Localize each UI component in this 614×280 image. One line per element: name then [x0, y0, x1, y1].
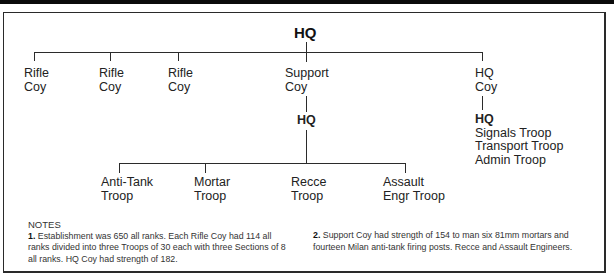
- connector: [205, 163, 206, 173]
- connector: [482, 52, 483, 61]
- connector: [34, 52, 483, 53]
- unit-rifle-coy-2: RifleCoy: [99, 67, 124, 94]
- troop-assault-engr: AssaultEngr Troop: [383, 176, 445, 203]
- notes-heading: NOTES: [28, 219, 288, 231]
- support-coy-hq-label: HQ: [297, 114, 316, 128]
- troop-mortar: MortarTroop: [194, 176, 230, 203]
- unit-rifle-coy-1: RifleCoy: [24, 67, 49, 94]
- connector: [110, 52, 111, 61]
- top-rule: [0, 0, 614, 4]
- connector: [178, 52, 179, 61]
- note-2: 2. Support Coy had strength of 154 to ma…: [313, 230, 575, 253]
- troop-anti-tank: Anti-TankTroop: [101, 176, 153, 203]
- connector: [34, 52, 35, 61]
- connector: [119, 163, 120, 173]
- connector: [306, 130, 307, 164]
- note-1: NOTES 1. Establishment was 650 all ranks…: [28, 219, 288, 265]
- unit-hq-coy: HQCoy: [475, 67, 497, 94]
- unit-support-coy: SupportCoy: [285, 67, 329, 94]
- battalion-hq-label: HQ: [294, 24, 317, 41]
- connector: [405, 163, 406, 173]
- connector: [306, 96, 307, 112]
- connector: [119, 163, 406, 164]
- unit-rifle-coy-3: RifleCoy: [168, 67, 193, 94]
- connector: [482, 96, 483, 110]
- troop-recce: RecceTroop: [291, 176, 326, 203]
- hq-coy-breakdown: HQ Signals Troop Transport Troop Admin T…: [475, 113, 563, 167]
